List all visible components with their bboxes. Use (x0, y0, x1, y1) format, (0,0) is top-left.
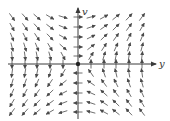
slope-arrow (9, 13, 14, 20)
slope-arrow (128, 69, 130, 78)
slope-arrow (87, 91, 95, 95)
slope-arrow (139, 108, 144, 115)
slope-arrow (23, 33, 27, 41)
slope-arrow (87, 16, 96, 18)
slope-arrow (59, 25, 67, 28)
slope-arrow (87, 80, 94, 85)
slope-arrow (103, 69, 106, 78)
slope-arrow (112, 109, 119, 115)
slope-arrow (23, 79, 26, 87)
slope-arrow (9, 108, 14, 115)
slope-arrow (49, 69, 52, 78)
slope-arrow (10, 89, 14, 97)
slope-arrow (87, 102, 96, 105)
slope-arrow (11, 79, 13, 88)
slope-arrow (46, 24, 53, 29)
origin-equilibrium-point (76, 62, 80, 66)
slope-arrow (11, 69, 12, 78)
slope-arrow (24, 69, 26, 78)
slope-arrow (139, 13, 144, 20)
slope-arrow (115, 69, 117, 78)
slope-arrow (59, 16, 68, 19)
slope-arrow (87, 111, 96, 113)
slope-arrow (59, 35, 67, 39)
slope-arrow (100, 110, 108, 114)
slope-arrow (127, 79, 130, 87)
slope-arrow (35, 33, 40, 41)
slope-arrow (34, 100, 40, 107)
slope-arrow (22, 99, 27, 106)
slope-arrow (127, 33, 131, 41)
slope-arrow (47, 34, 53, 40)
slope-arrow (87, 44, 94, 49)
slope-arrow (61, 69, 66, 77)
slope-arrow (126, 109, 132, 116)
slope-arrow (113, 89, 118, 96)
slope-arrow (141, 52, 142, 61)
horizontal-axis-label: y (158, 58, 165, 69)
slope-arrow (48, 43, 53, 51)
slope-arrow (103, 52, 106, 61)
slope-arrow (59, 80, 66, 86)
slope-arrow (140, 23, 145, 31)
slope-arrow (89, 52, 94, 60)
slope-arrow (59, 101, 67, 104)
slope-arrow (10, 99, 15, 107)
slope-arrow (141, 69, 142, 78)
slope-arrow (34, 109, 41, 115)
slope-arrow (11, 52, 12, 61)
slope-arrow (61, 52, 65, 60)
slope-arrow (35, 79, 39, 87)
slope-arrow (34, 89, 39, 96)
slope-arrow (11, 43, 13, 52)
slope-arrow (49, 52, 51, 61)
slope-arrow (140, 89, 144, 97)
slope-arrow (36, 69, 38, 78)
slope-arrow (60, 44, 67, 50)
slope-arrow (46, 15, 54, 20)
slope-arrow (47, 79, 52, 86)
slope-arrow (141, 43, 143, 52)
slope-arrow (10, 23, 14, 31)
slope-arrow (102, 43, 107, 51)
slope-arrow (24, 43, 27, 52)
slope-arrow (100, 15, 108, 19)
slope-arrow (114, 79, 118, 87)
slope-arrow (100, 24, 107, 29)
slope-arrow (140, 99, 145, 107)
slope-arrow (101, 79, 106, 86)
vertical-axis-label: v (82, 6, 88, 17)
slope-arrow (128, 52, 129, 61)
slope-arrow (126, 14, 132, 21)
direction-field-plot: y v (0, 0, 170, 121)
slope-arrow (24, 52, 25, 61)
slope-arrow (127, 89, 131, 97)
slope-arrow (59, 111, 68, 114)
slope-arrow (113, 33, 118, 40)
slope-arrow (113, 24, 119, 30)
slope-arrow (114, 43, 118, 51)
slope-arrow (22, 14, 28, 21)
slope-arrow (23, 89, 27, 97)
slope-arrow (22, 23, 27, 30)
slope-arrow (22, 109, 28, 116)
slope-arrow (101, 90, 108, 96)
slope-arrow (47, 90, 53, 96)
slope-arrow (100, 101, 107, 106)
slope-arrow (101, 34, 107, 40)
slope-arrow (126, 23, 131, 30)
slope-arrow (59, 91, 67, 95)
slope-arrow (115, 52, 117, 61)
slope-arrow (126, 99, 131, 106)
slope-arrow (10, 33, 13, 41)
slope-arrow (141, 79, 144, 88)
slope-arrow (46, 110, 54, 115)
slope-arrow (113, 14, 120, 20)
slope-arrow (36, 52, 38, 61)
slope-arrow (88, 69, 93, 76)
slope-arrow (128, 43, 131, 52)
slope-arrow (46, 100, 53, 105)
slope-arrow (140, 33, 144, 41)
slope-arrow (34, 24, 40, 31)
slope-arrow (34, 14, 41, 20)
